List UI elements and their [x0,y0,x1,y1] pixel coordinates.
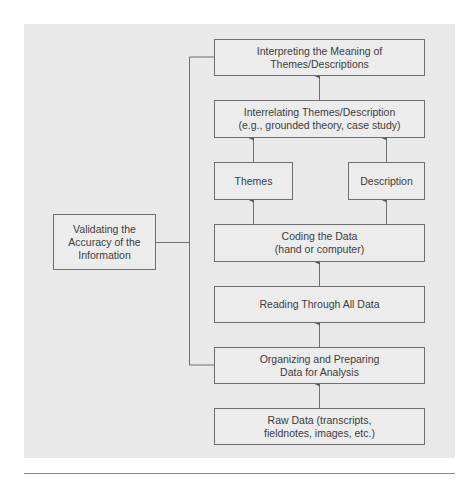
box-organizing-line2: Data for Analysis [260,366,380,379]
box-coding-line2: (hand or computer) [275,243,364,256]
box-interpreting-line2: Themes/Descriptions [257,58,383,71]
box-reading-data: Reading Through All Data [214,286,425,323]
box-coding-data: Coding the Data (hand or computer) [214,224,425,262]
box-validating-line2: Accuracy of the [68,236,140,249]
box-interrelating-line1: Interrelating Themes/Description [238,106,400,119]
box-interpreting-meaning: Interpreting the Meaning of Themes/Descr… [214,39,425,76]
box-raw-data: Raw Data (transcripts, fieldnotes, image… [214,408,425,445]
box-organizing-line1: Organizing and Preparing [260,353,380,366]
box-coding-line1: Coding the Data [275,230,364,243]
box-raw-line1: Raw Data (transcripts, [264,414,375,427]
box-validating-accuracy: Validating the Accuracy of the Informati… [53,214,156,270]
box-validating-line1: Validating the [68,223,140,236]
box-raw-line2: fieldnotes, images, etc.) [264,427,375,440]
box-interpreting-line1: Interpreting the Meaning of [257,45,383,58]
caption-divider [24,473,455,474]
box-interrelating-line2: (e.g., grounded theory, case study) [238,119,400,132]
box-interrelating-themes: Interrelating Themes/Description (e.g., … [214,100,425,138]
box-description-label: Description [360,175,413,188]
box-validating-line3: Information [68,249,140,262]
box-description: Description [348,162,425,200]
box-organizing-data: Organizing and Preparing Data for Analys… [214,347,425,384]
box-reading-label: Reading Through All Data [259,298,379,311]
box-themes: Themes [214,162,293,200]
box-themes-label: Themes [235,175,273,188]
